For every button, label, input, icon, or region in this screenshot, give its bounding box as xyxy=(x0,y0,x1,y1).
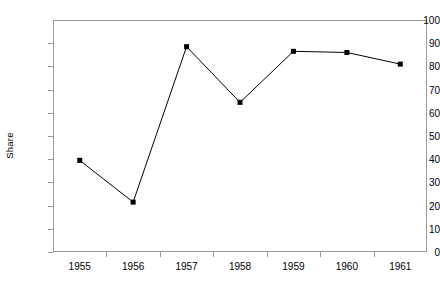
x-tick-label: 1955 xyxy=(50,261,110,272)
data-point-marker xyxy=(291,49,296,54)
series-markers-share xyxy=(77,44,403,204)
x-tick-mark xyxy=(374,252,375,257)
x-tick-label: 1958 xyxy=(210,261,270,272)
data-point-marker xyxy=(77,158,82,163)
y-tick-label: 30 xyxy=(406,177,440,188)
y-tick-mark xyxy=(48,252,53,253)
data-point-marker xyxy=(184,44,189,49)
y-tick-label: 0 xyxy=(406,247,440,258)
x-tick-mark xyxy=(106,252,107,257)
data-point-marker xyxy=(344,50,349,55)
data-point-marker xyxy=(398,62,403,67)
x-tick-mark xyxy=(267,252,268,257)
x-tick-label: 1960 xyxy=(317,261,377,272)
series-line-share xyxy=(80,47,401,202)
y-tick-mark xyxy=(48,229,53,230)
line-chart: Share 0102030405060708090100195519561957… xyxy=(0,0,440,291)
x-tick-label: 1957 xyxy=(157,261,217,272)
y-tick-mark xyxy=(48,113,53,114)
x-tick-label: 1956 xyxy=(103,261,163,272)
y-tick-mark xyxy=(48,206,53,207)
data-point-marker xyxy=(131,200,136,205)
y-tick-mark xyxy=(48,159,53,160)
x-tick-label: 1959 xyxy=(263,261,323,272)
x-tick-label: 1961 xyxy=(370,261,430,272)
x-tick-mark xyxy=(213,252,214,257)
y-tick-mark xyxy=(48,90,53,91)
y-tick-mark xyxy=(48,136,53,137)
series-layer xyxy=(0,0,440,291)
y-tick-mark xyxy=(48,182,53,183)
data-point-marker xyxy=(238,100,243,105)
y-tick-label: 20 xyxy=(406,200,440,211)
y-tick-mark xyxy=(48,66,53,67)
y-tick-label: 40 xyxy=(406,154,440,165)
y-tick-label: 60 xyxy=(406,107,440,118)
y-tick-label: 70 xyxy=(406,84,440,95)
y-tick-label: 50 xyxy=(406,131,440,142)
y-tick-label: 80 xyxy=(406,61,440,72)
y-tick-label: 100 xyxy=(406,15,440,26)
y-tick-label: 90 xyxy=(406,38,440,49)
x-tick-mark xyxy=(320,252,321,257)
x-tick-mark xyxy=(160,252,161,257)
y-tick-label: 10 xyxy=(406,223,440,234)
y-tick-mark xyxy=(48,43,53,44)
